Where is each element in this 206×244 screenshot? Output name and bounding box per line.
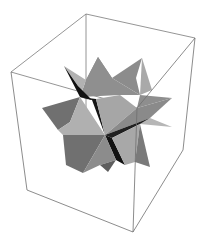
face-top-right-light: [140, 58, 152, 95]
polyhedron-figure: [0, 0, 206, 244]
plot-canvas: [0, 0, 206, 244]
stellated-polyhedron: [42, 57, 172, 173]
